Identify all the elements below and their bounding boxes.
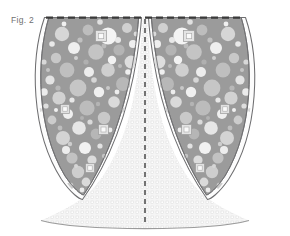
square-inclusion bbox=[99, 125, 109, 135]
square-inclusion bbox=[86, 164, 95, 173]
square-inclusion bbox=[221, 105, 230, 114]
square-inclusion bbox=[96, 31, 107, 42]
figure-label: Fig. 2 bbox=[11, 15, 34, 25]
square-inclusion bbox=[182, 125, 192, 135]
technical-drawing-svg bbox=[0, 0, 290, 236]
square-inclusion bbox=[61, 105, 70, 114]
figure-root: Fig. 2 bbox=[0, 0, 290, 236]
square-inclusion bbox=[184, 31, 195, 42]
square-inclusion bbox=[196, 164, 205, 173]
